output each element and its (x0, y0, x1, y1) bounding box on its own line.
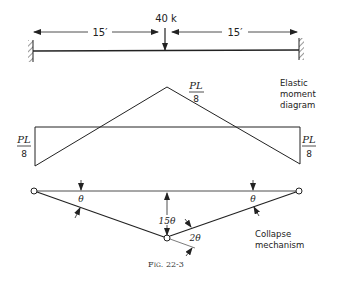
center-deflection-label: 15θ (159, 216, 176, 226)
moment-title-3: diagram (280, 100, 315, 110)
moment-title-2: moment (280, 89, 316, 99)
peak-moment-den: 8 (193, 94, 199, 104)
left-angle-arrow-bottom (75, 208, 80, 218)
right-hinge-icon (296, 188, 302, 194)
figure: 15′ 15′ 40 k PL 8 PL 8 PL 8 Elastic mome… (0, 0, 340, 282)
center-hinge-icon (164, 235, 170, 241)
span-left-label: 15′ (93, 27, 109, 38)
left-moment-num: PL (16, 134, 31, 145)
center-angle-arrow-top (185, 219, 191, 227)
right-fixed-support (299, 38, 304, 60)
mechanism-left-member (37, 192, 164, 237)
moment-title-1: Elastic (280, 78, 308, 88)
right-moment-num: PL (301, 134, 316, 145)
figure-caption: Fig. 22-3 (148, 260, 184, 269)
left-angle-label: θ (78, 194, 84, 204)
beam (33, 50, 299, 51)
right-moment-den: 8 (306, 149, 312, 159)
left-fixed-support (28, 40, 33, 62)
left-hinge-icon (31, 188, 37, 194)
mechanism-title-1: Collapse (255, 229, 291, 239)
load-label: 40 k (155, 13, 177, 24)
span-right-label: 15′ (228, 27, 244, 38)
right-angle-label: θ (250, 194, 256, 204)
right-angle-arrow-bottom (254, 207, 259, 216)
mechanism-title-2: mechanism (255, 240, 304, 250)
collapse-mechanism: θ θ 15θ 2θ Collapse mechanism (31, 180, 304, 256)
center-angle-label: 2θ (188, 233, 201, 243)
beam-diagram: 15′ 15′ 40 k (28, 13, 304, 62)
moment-diagram: PL 8 PL 8 PL 8 Elastic moment diagram (16, 78, 316, 166)
peak-moment-num: PL (188, 80, 203, 91)
center-angle-arrow-bottom (186, 248, 192, 256)
left-moment-den: 8 (21, 149, 27, 159)
